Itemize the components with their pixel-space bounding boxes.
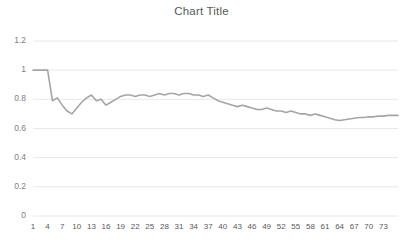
x-axis-tick-label: 19 [116,222,125,231]
x-axis-tick-label: 31 [175,222,184,231]
x-axis-tick-label: 10 [72,222,81,231]
x-axis-tick-label: 16 [102,222,111,231]
x-axis-tick-label: 46 [248,222,257,231]
x-axis-tick-label: 1 [31,222,35,231]
x-axis-tick-label: 13 [87,222,96,231]
x-axis-tick-label: 7 [60,222,64,231]
x-axis-tick-label: 67 [350,222,359,231]
x-axis-tick-label: 22 [131,222,140,231]
x-axis-tick-label: 4 [45,222,49,231]
chart-container: Chart Title 00.20.40.60.811.2 1471013161… [0,0,403,247]
x-axis-tick-label: 61 [321,222,330,231]
x-axis-tick-label: 52 [277,222,286,231]
x-axis-tick-label: 25 [145,222,154,231]
x-axis-tick-label: 28 [160,222,169,231]
x-axis-tick-label: 43 [233,222,242,231]
x-axis-tick-label: 49 [262,222,271,231]
x-axis-tick-label: 70 [364,222,373,231]
x-axis-tick-label: 34 [189,222,198,231]
x-axis-tick-label: 37 [204,222,213,231]
x-axis-tick-label: 55 [291,222,300,231]
x-axis-tick-label: 64 [335,222,344,231]
x-axis-tick-label: 73 [379,222,388,231]
x-axis-tick-label: 58 [306,222,315,231]
x-axis: 1471013161922252831343740434649525558616… [0,0,403,247]
x-axis-tick-label: 40 [218,222,227,231]
